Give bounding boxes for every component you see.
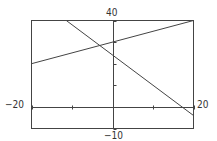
- series-line-falling: [66, 21, 193, 116]
- ymin-label: −10: [104, 131, 123, 141]
- graph-window: [0, 0, 217, 141]
- plot-frame: [32, 21, 194, 129]
- axes: [32, 21, 195, 130]
- ymax-label: 40: [106, 8, 117, 18]
- xmax-label: 20: [197, 100, 208, 110]
- xmin-label: −20: [5, 100, 24, 110]
- data-lines: [32, 21, 194, 116]
- series-line-rising: [32, 21, 194, 64]
